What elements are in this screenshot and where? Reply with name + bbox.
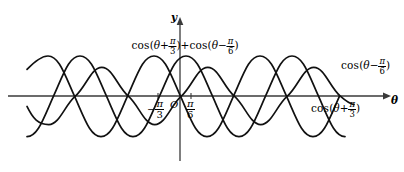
- plus-operator: +: [340, 102, 349, 114]
- x-axis-label: θ: [391, 95, 398, 106]
- pi-over-3-fraction: π3: [348, 100, 356, 119]
- x-tick-label-neg-pi-over-3: −π3: [147, 99, 164, 121]
- annotation-sum-curve: cos(θ+π3)+cos(θ−π6): [131, 37, 238, 56]
- y-axis-arrowhead: [177, 17, 184, 25]
- x-axis: [8, 93, 391, 100]
- cos-function-name: cos: [341, 59, 359, 71]
- annotation-cos-theta-minus-pi-over-6: cos(θ−π6): [341, 57, 390, 76]
- plus-operator: +: [160, 39, 169, 51]
- annotation-cos-theta-plus-pi-over-3: cos(θ+π3): [311, 100, 360, 119]
- cos-function-name-2: cos: [189, 39, 207, 51]
- minus-operator: −: [370, 59, 379, 71]
- math-graph-figure: cos(θ+π3)+cos(θ−π6) cos(θ−π6) cos(θ+π3) …: [0, 0, 404, 172]
- minus-sign: −: [147, 104, 155, 115]
- y-axis-label: y: [171, 12, 177, 23]
- pi-over-6-fraction: π6: [186, 99, 195, 121]
- pi-over-3-fraction: π3: [155, 99, 164, 121]
- x-tick-label-pi-over-6: π6: [186, 99, 195, 121]
- minus-operator: −: [218, 39, 227, 51]
- origin-label: O: [170, 100, 178, 110]
- pi-over-6-fraction: π6: [378, 57, 386, 76]
- sum-operator: +: [181, 39, 190, 51]
- cos-function-name: cos: [131, 39, 149, 51]
- cos-function-name: cos: [311, 102, 329, 114]
- pi-over-6-fraction: π6: [227, 37, 235, 56]
- pi-over-3-fraction: π3: [169, 37, 177, 56]
- plot-canvas: [0, 0, 404, 172]
- x-axis-arrowhead: [383, 93, 391, 100]
